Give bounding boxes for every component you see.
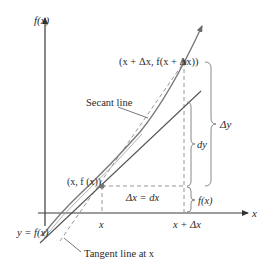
dy-label: dy <box>197 139 207 150</box>
dy-brace <box>187 102 195 186</box>
differential-diagram: f(x) x (x + Δx, f(x + Δx)) (x, f (x)) Se… <box>0 0 268 270</box>
tangent-line-label: Tangent line at x <box>84 248 155 259</box>
base-point-label: (x, f (x)) <box>67 176 101 188</box>
braces <box>187 62 216 212</box>
tick-label-x-plus-dx: x + Δx <box>172 219 201 230</box>
delta-y-label: Δy <box>219 118 231 130</box>
delta-y-brace <box>205 62 216 186</box>
secant-line-label: Secant line <box>86 97 133 108</box>
x-axis-label: x <box>251 207 257 219</box>
tangent-pointer <box>64 238 81 252</box>
y-axis-label: f(x) <box>34 14 50 27</box>
secant-pointer <box>118 107 148 118</box>
diagram-svg: f(x) x (x + Δx, f(x + Δx)) (x, f (x)) Se… <box>0 0 268 270</box>
fx-brace <box>187 187 195 212</box>
delta-x-label: Δx = dx <box>125 192 159 203</box>
fx-brace-label: f(x) <box>198 195 213 207</box>
secant-point-label: (x + Δx, f(x + Δx)) <box>119 56 199 68</box>
curve-label: y = f(x) <box>16 227 49 239</box>
tick-label-x: x <box>98 219 104 230</box>
